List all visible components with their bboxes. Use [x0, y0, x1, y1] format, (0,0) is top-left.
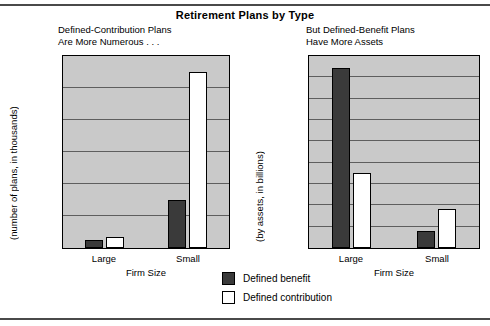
panel-right-subtitle: But Defined-Benefit Plans Have More Asse… — [306, 24, 415, 47]
bar-group — [168, 56, 207, 248]
x-tick-label: Small — [407, 253, 467, 264]
legend-label: Defined benefit — [243, 273, 310, 284]
bar-groups — [63, 56, 229, 248]
panel-left-plot-wrapper: 0100200300400500600 LargeSmall Firm Size — [62, 55, 230, 249]
legend-item: Defined contribution — [222, 291, 332, 304]
panels-container: Defined-Contribution Plans Are More Nume… — [0, 24, 490, 274]
x-tick-label: Small — [158, 253, 218, 264]
panel-left-x-tick-labels: LargeSmall — [62, 249, 230, 264]
panel-left-subtitle: Defined-Contribution Plans Are More Nume… — [58, 24, 172, 47]
bar-contribution — [353, 173, 371, 248]
chart-main-title: Retirement Plans by Type — [0, 9, 490, 21]
bar-contribution — [189, 72, 207, 248]
panel-left-plot-area: 0100200300400500600 — [62, 55, 230, 249]
x-tick-label: Large — [74, 253, 134, 264]
x-tick-label: Large — [321, 253, 381, 264]
legend-item: Defined benefit — [222, 272, 332, 285]
panel-right-plot-area: 0100200300400500600700800$900 — [308, 55, 480, 249]
bar-group — [417, 56, 456, 248]
bar-contribution — [438, 209, 456, 248]
legend-label: Defined contribution — [243, 292, 332, 303]
panel-left-x-axis-title: Firm Size — [62, 267, 230, 278]
legend-swatch-benefit — [222, 272, 235, 285]
panel-right-plot-wrapper: 0100200300400500600700800$900 LargeSmall… — [308, 55, 480, 249]
panel-left-y-axis-title: (number of plans, in thousands) — [8, 60, 19, 240]
panel-right-x-tick-labels: LargeSmall — [308, 249, 480, 264]
panel-right-x-axis-title: Firm Size — [308, 267, 480, 278]
bottom-rule — [0, 318, 490, 320]
bar-benefit — [332, 68, 350, 248]
bar-benefit — [168, 200, 186, 248]
bar-benefit — [85, 240, 103, 248]
legend-swatch-contribution — [222, 291, 235, 304]
figure: Retirement Plans by Type Defined-Contrib… — [0, 0, 490, 326]
bar-benefit — [417, 231, 435, 248]
top-rule — [0, 4, 490, 6]
bar-group — [332, 56, 371, 248]
bar-contribution — [106, 237, 124, 248]
panel-right-y-axis-title: (by assets, in billions) — [254, 72, 265, 242]
bar-groups — [309, 56, 479, 248]
bar-group — [85, 56, 124, 248]
panel-left: Defined-Contribution Plans Are More Nume… — [6, 24, 238, 274]
panel-right: But Defined-Benefit Plans Have More Asse… — [244, 24, 484, 274]
chart-legend: Defined benefitDefined contribution — [222, 272, 332, 304]
